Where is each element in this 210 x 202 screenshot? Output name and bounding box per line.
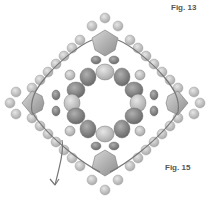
beadwork-diagram	[0, 0, 210, 202]
bicone-beads	[22, 30, 188, 176]
inner-ring-beads	[52, 56, 158, 150]
thread-arrow-icon	[50, 179, 59, 185]
